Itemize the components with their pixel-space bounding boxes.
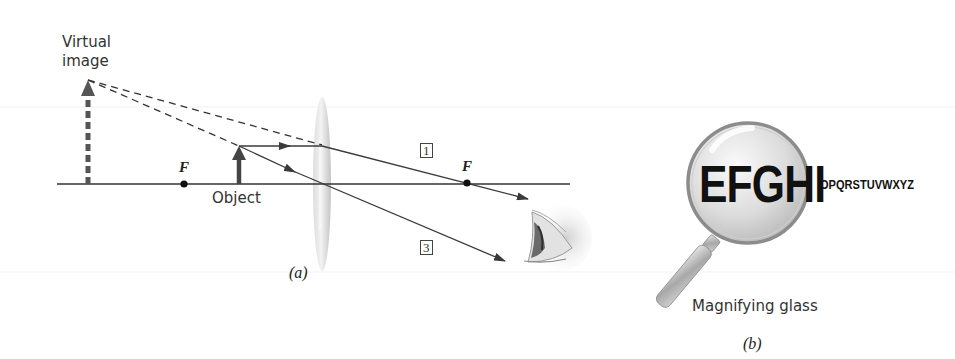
focal-label-right: F (462, 158, 472, 175)
ray-3-label: 3 (420, 240, 433, 255)
object-label: Object (212, 189, 261, 207)
ray-1 (239, 146, 528, 199)
virtual-ray-extension-1 (88, 80, 322, 145)
focal-label-left: F (179, 159, 189, 176)
virtual-image-label-line1: Virtual (62, 33, 111, 52)
virtual-image-label: Virtual image (62, 33, 111, 71)
virtual-image-arrow (81, 80, 95, 184)
focal-point-left (180, 180, 187, 187)
eye-icon (524, 204, 592, 272)
virtual-ray-extension-3 (88, 80, 239, 146)
normal-text: OPQRSTUVWXYZ (820, 178, 914, 191)
panel-a-caption: (a) (289, 264, 308, 282)
ray-1-label: 1 (420, 143, 433, 158)
focal-point-right (463, 179, 470, 186)
virtual-image-label-line2: image (62, 52, 111, 71)
magnifying-glass-label: Magnifying glass (692, 297, 818, 315)
diagram-stage: Virtual image F F Object 1 3 (a) EFGHI O… (0, 0, 955, 359)
object-arrow (232, 146, 246, 184)
magnified-text: EFGHI (699, 158, 825, 210)
panel-b-caption: (b) (743, 335, 762, 353)
magnifying-glass-icon (654, 123, 808, 310)
